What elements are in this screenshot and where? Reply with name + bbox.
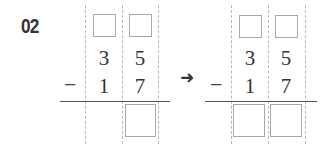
- answer-tens-box[interactable]: [233, 104, 265, 137]
- minus-sign: −: [64, 74, 76, 96]
- ones-carry-box[interactable]: [275, 15, 298, 38]
- problem-number: 02: [21, 14, 39, 38]
- subtrahend-tens-digit: 1: [92, 75, 116, 97]
- column-guide: [85, 5, 86, 144]
- arrow-right-icon: ➜: [180, 68, 194, 86]
- sum-line: [60, 101, 170, 102]
- column-guide: [268, 5, 269, 144]
- subtrahend-ones-digit: 7: [274, 75, 298, 97]
- minuend-ones-digit: 5: [128, 47, 152, 69]
- minuend-tens-digit: 3: [92, 47, 116, 69]
- answer-ones-box[interactable]: [270, 104, 302, 137]
- subtrahend-tens-digit: 1: [238, 75, 262, 97]
- tens-carry-box[interactable]: [93, 14, 116, 37]
- ones-carry-box[interactable]: [129, 14, 152, 37]
- column-guide: [305, 5, 306, 144]
- column-guide: [158, 5, 159, 144]
- minuend-ones-digit: 5: [274, 47, 298, 69]
- answer-ones-box[interactable]: [125, 104, 156, 137]
- subtrahend-ones-digit: 7: [128, 75, 152, 97]
- tens-carry-box[interactable]: [239, 15, 262, 38]
- minus-sign: −: [210, 74, 222, 96]
- minuend-tens-digit: 3: [238, 47, 262, 69]
- sum-line: [205, 101, 317, 102]
- column-guide: [231, 5, 232, 144]
- column-guide: [122, 5, 123, 144]
